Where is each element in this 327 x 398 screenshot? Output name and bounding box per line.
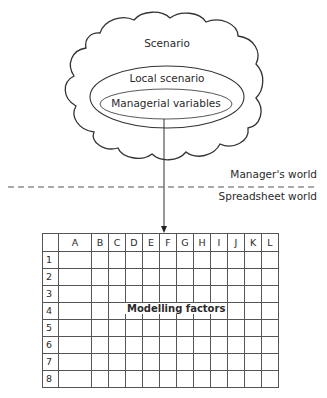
spreadsheet-world-label: Spreadsheet world xyxy=(219,190,317,202)
cell xyxy=(160,371,177,388)
cell xyxy=(160,286,177,303)
cell xyxy=(262,371,279,388)
cell xyxy=(245,286,262,303)
cell xyxy=(262,354,279,371)
cell xyxy=(160,269,177,286)
cell xyxy=(194,252,211,269)
cell xyxy=(59,269,92,286)
cell xyxy=(109,286,126,303)
cell xyxy=(160,252,177,269)
cell xyxy=(177,354,194,371)
cell xyxy=(262,337,279,354)
cell xyxy=(194,320,211,337)
cell xyxy=(177,269,194,286)
cell xyxy=(228,371,245,388)
table-row: 1 xyxy=(43,252,279,269)
column-header: J xyxy=(228,234,245,252)
cell xyxy=(143,286,160,303)
table-row: 7 xyxy=(43,354,279,371)
corner-cell xyxy=(43,234,59,252)
scenario-label: Scenario xyxy=(144,37,190,49)
cell xyxy=(59,286,92,303)
column-header: L xyxy=(262,234,279,252)
cell xyxy=(245,320,262,337)
cell xyxy=(262,286,279,303)
row-header: 8 xyxy=(43,371,59,388)
column-header: A xyxy=(59,234,92,252)
cell xyxy=(160,354,177,371)
cell xyxy=(262,320,279,337)
managerial-variables-label: Managerial variables xyxy=(111,97,220,109)
cell xyxy=(92,354,109,371)
cell xyxy=(92,337,109,354)
cell xyxy=(228,303,245,320)
row-header: 7 xyxy=(43,354,59,371)
cell xyxy=(59,303,92,320)
cell xyxy=(109,269,126,286)
cell xyxy=(92,320,109,337)
cell xyxy=(177,286,194,303)
cell xyxy=(245,371,262,388)
cell xyxy=(126,337,143,354)
cell xyxy=(177,320,194,337)
row-header: 3 xyxy=(43,286,59,303)
column-header: B xyxy=(92,234,109,252)
cell xyxy=(177,371,194,388)
cell xyxy=(126,320,143,337)
cell xyxy=(177,252,194,269)
cell xyxy=(245,252,262,269)
row-header: 5 xyxy=(43,320,59,337)
cell xyxy=(211,269,228,286)
cell xyxy=(126,371,143,388)
cell xyxy=(228,252,245,269)
cell xyxy=(211,337,228,354)
cell xyxy=(160,337,177,354)
cell xyxy=(59,337,92,354)
cell xyxy=(109,252,126,269)
cell xyxy=(160,320,177,337)
cell xyxy=(143,354,160,371)
column-header: E xyxy=(143,234,160,252)
local-scenario-label: Local scenario xyxy=(129,72,204,84)
column-header: H xyxy=(194,234,211,252)
cell xyxy=(92,269,109,286)
table-row: 5 xyxy=(43,320,279,337)
cell xyxy=(59,252,92,269)
column-header: G xyxy=(177,234,194,252)
cell xyxy=(211,320,228,337)
table-row: 6 xyxy=(43,337,279,354)
cell xyxy=(143,320,160,337)
cell xyxy=(59,320,92,337)
cell xyxy=(177,337,194,354)
cell xyxy=(245,303,262,320)
column-header-row: A B C D E F G H I J K L xyxy=(43,234,279,252)
cell xyxy=(228,354,245,371)
cell xyxy=(92,303,109,320)
row-header: 1 xyxy=(43,252,59,269)
table-row: 3 xyxy=(43,286,279,303)
cell xyxy=(126,286,143,303)
cell xyxy=(92,252,109,269)
cell xyxy=(59,354,92,371)
column-header: K xyxy=(245,234,262,252)
cell xyxy=(194,269,211,286)
cell xyxy=(245,354,262,371)
table-row: 8 xyxy=(43,371,279,388)
cell xyxy=(262,252,279,269)
column-header: I xyxy=(211,234,228,252)
cell xyxy=(109,354,126,371)
cell xyxy=(228,337,245,354)
cell xyxy=(126,354,143,371)
cell xyxy=(211,286,228,303)
row-header: 4 xyxy=(43,303,59,320)
managers-world-label: Manager's world xyxy=(230,168,317,180)
cell xyxy=(126,252,143,269)
cell xyxy=(262,303,279,320)
column-header: D xyxy=(126,234,143,252)
cell xyxy=(92,371,109,388)
cell xyxy=(194,286,211,303)
cell xyxy=(194,337,211,354)
cell xyxy=(59,371,92,388)
modelling-factors-label: Modelling factors xyxy=(125,303,227,314)
column-header: F xyxy=(160,234,177,252)
